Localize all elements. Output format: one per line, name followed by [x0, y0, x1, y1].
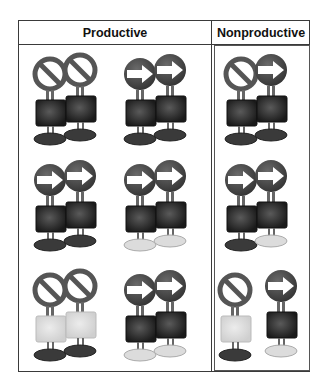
arrow-sign-figure-icon [150, 158, 192, 250]
arrow-sign-figure-icon [261, 268, 303, 360]
no-entry-sign-figure-icon [60, 268, 102, 360]
arrow-sign-figure-icon [251, 52, 293, 144]
no-entry-sign-figure-icon [60, 52, 102, 144]
arrow-sign-figure-icon [150, 268, 192, 360]
header-productive: Productive [19, 21, 211, 44]
figure-pair-productive-a-row-2 [24, 158, 114, 258]
column-divider [211, 20, 212, 372]
arrow-sign-figure-icon [150, 52, 192, 144]
header-nonproductive: Nonproductive [212, 21, 310, 44]
arrow-sign-figure-icon [60, 158, 102, 250]
figure-pair-nonproductive-row-3 [215, 268, 305, 368]
figure-pair-productive-a-row-1 [24, 52, 114, 152]
figure-pair-productive-a-row-3 [24, 268, 114, 368]
no-entry-sign-figure-icon [215, 272, 257, 364]
figure-pair-productive-b-row-1 [114, 52, 204, 152]
figure-pair-productive-b-row-3 [114, 268, 204, 368]
arrow-sign-figure-icon [251, 158, 293, 250]
figure-pair-productive-b-row-2 [114, 158, 204, 258]
figure-pair-nonproductive-row-2 [215, 158, 305, 258]
figure-pair-nonproductive-row-1 [215, 52, 305, 152]
